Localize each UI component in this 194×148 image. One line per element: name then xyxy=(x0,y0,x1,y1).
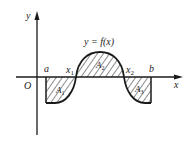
y-axis-arrow-icon xyxy=(35,11,40,20)
x-axis-label: x xyxy=(173,79,179,90)
curve-label: y = f(x) xyxy=(83,36,115,48)
y-axis-label: y xyxy=(25,10,31,21)
origin-label: O xyxy=(24,80,31,91)
point-a-label: a xyxy=(44,63,49,74)
point-b-label: b xyxy=(149,63,154,74)
point-x1-label: x1 xyxy=(65,64,74,77)
area-diagram: y x O y = f(x) a x1 x2 b A1 A2 A3 xyxy=(0,0,194,148)
point-x2-label: x2 xyxy=(125,64,134,77)
